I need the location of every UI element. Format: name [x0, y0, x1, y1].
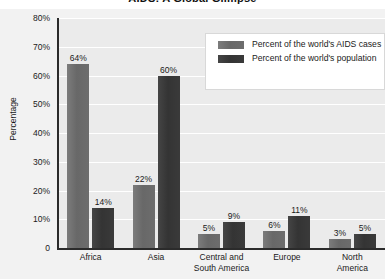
bar-value-label: 22%	[135, 174, 152, 184]
y-axis-tick-0: 0	[4, 243, 50, 253]
x-axis-label-line: North	[320, 252, 385, 263]
bar: 60%	[158, 76, 180, 249]
x-axis-label-line: Africa	[58, 252, 123, 263]
legend-item-population: Percent of the world's population	[218, 53, 384, 64]
bar: 14%	[92, 208, 114, 248]
x-axis-label-line: America	[320, 263, 385, 274]
bar: 6%	[263, 231, 285, 248]
bar-value-label: 64%	[70, 53, 87, 63]
x-axis-label-asia: Asia	[123, 252, 188, 263]
gridline	[58, 104, 385, 105]
legend-label-population: Percent of the world's population	[252, 53, 376, 64]
bar: 5%	[198, 234, 220, 248]
chart-title: AIDS: A Global Glimpse	[0, 0, 385, 4]
x-axis-label-line: Europe	[254, 252, 319, 263]
x-axis-label-africa: Africa	[58, 252, 123, 263]
bar: 3%	[329, 239, 351, 248]
legend-item-aids-cases: Percent of the world's AIDS cases	[218, 39, 384, 50]
gridline	[58, 191, 385, 192]
bar-value-label: 3%	[334, 228, 346, 238]
bar-value-label: 5%	[359, 223, 371, 233]
bar-value-label: 60%	[160, 65, 177, 75]
y-axis-tick-40: 40%	[4, 128, 50, 138]
bar: 64%	[67, 64, 89, 248]
y-axis-line	[57, 18, 59, 249]
legend-label-aids-cases: Percent of the world's AIDS cases	[252, 39, 381, 50]
gridline	[58, 18, 385, 19]
chart-legend: Percent of the world's AIDS cases Percen…	[205, 33, 385, 90]
x-axis-label-europe: Europe	[254, 252, 319, 263]
legend-swatch-icon-aids-cases	[218, 41, 244, 49]
y-axis-tick-50: 50%	[4, 99, 50, 109]
y-axis-tick-60: 60%	[4, 71, 50, 81]
y-axis-tick-70: 70%	[4, 42, 50, 52]
x-axis-category-labels: AfricaAsiaCentral andSouth AmericaEurope…	[58, 252, 385, 279]
y-axis-tick-labels: 010%20%30%40%50%60%70%80%	[2, 9, 50, 279]
chart-figure: Percentage 010%20%30%40%50%60%70%80% 64%…	[0, 9, 385, 279]
y-axis-tick-80: 80%	[4, 13, 50, 23]
bar: 5%	[354, 234, 376, 248]
gridline	[58, 162, 385, 163]
y-axis-tick-30: 30%	[4, 157, 50, 167]
bar-value-label: 9%	[228, 211, 240, 221]
x-axis-label-line: Asia	[123, 252, 188, 263]
x-axis-label-line: South America	[189, 263, 254, 274]
bar-value-label: 14%	[95, 197, 112, 207]
x-axis-line	[57, 248, 385, 250]
bar: 22%	[133, 185, 155, 248]
x-axis-label-line: Central and	[189, 252, 254, 263]
bar: 9%	[223, 222, 245, 248]
legend-swatch-icon-population	[218, 55, 244, 63]
y-axis-tick-10: 10%	[4, 214, 50, 224]
gridline	[58, 133, 385, 134]
bar: 11%	[288, 216, 310, 248]
bar-value-label: 5%	[203, 223, 215, 233]
x-axis-label-central-and-south-america: Central andSouth America	[189, 252, 254, 273]
bar-value-label: 6%	[268, 220, 280, 230]
y-axis-tick-20: 20%	[4, 186, 50, 196]
bar-value-label: 11%	[291, 205, 307, 215]
x-axis-label-north-america: NorthAmerica	[320, 252, 385, 273]
